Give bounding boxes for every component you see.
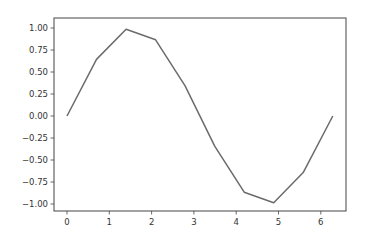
y-tick-label: 1.00	[29, 23, 48, 33]
x-axis: 0123456	[64, 211, 323, 227]
y-tick-label: −1.00	[22, 199, 48, 209]
y-tick-label: 0.50	[29, 67, 48, 77]
y-tick-label: 0.75	[29, 45, 48, 55]
x-tick-label: 0	[64, 217, 69, 227]
x-tick-label: 4	[233, 217, 238, 227]
x-tick-label: 1	[107, 217, 112, 227]
plot-area	[54, 18, 346, 211]
x-tick-label: 2	[149, 217, 154, 227]
y-tick-label: 0.00	[29, 111, 48, 121]
x-tick-label: 3	[191, 217, 196, 227]
line-chart: 1.000.750.500.250.00−0.25−0.50−0.75−1.00…	[0, 0, 367, 247]
y-tick-label: −0.25	[22, 133, 48, 143]
y-axis: 1.000.750.500.250.00−0.25−0.50−0.75−1.00	[22, 23, 54, 209]
y-tick-label: 0.25	[29, 89, 48, 99]
x-tick-label: 5	[276, 217, 281, 227]
y-tick-label: −0.50	[22, 155, 48, 165]
y-tick-label: −0.75	[22, 177, 48, 187]
x-tick-label: 6	[318, 217, 323, 227]
